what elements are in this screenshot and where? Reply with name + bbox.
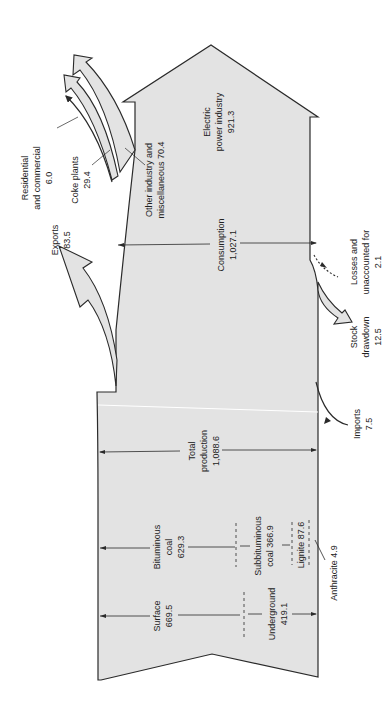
residential-value: 6.0: [44, 172, 54, 185]
exports-value: 83.5: [62, 231, 72, 249]
other-industry-arrow: [73, 55, 135, 172]
coal-flow-diagram: Residential and commercial 6.0 Coke plan…: [0, 0, 392, 718]
underground-label: Underground: [267, 588, 277, 641]
other-industry-label-2: miscellaneous 70.4: [156, 141, 166, 218]
losses-arrowhead-icon: [320, 262, 327, 268]
stock-drawdown-label-1: Stock: [349, 325, 359, 348]
residential-leader: [57, 117, 78, 128]
stock-drawdown-value: 12.5: [373, 328, 383, 346]
subbituminous-label-2: coal 366.9: [265, 525, 275, 567]
imports-arrow: [316, 382, 348, 425]
coke-plants-label: Coke plants: [70, 156, 80, 204]
imports-label: Imports: [352, 409, 362, 440]
surface-value: 669.5: [164, 605, 174, 628]
bituminous-label-1: Bituminous: [152, 524, 162, 569]
other-industry-label-1: Other industry and: [144, 143, 154, 217]
consumption-label: Consumption: [216, 218, 226, 271]
anthracite-label: Anthracite 4.9: [329, 545, 339, 601]
losses-label-1: Losses and: [349, 239, 359, 285]
lignite-label: Lignite 87.6: [296, 522, 306, 569]
total-production-label-2: production: [199, 430, 209, 472]
consumption-arrowhead-left-icon: [118, 243, 124, 247]
coke-plants-value: 29.4: [82, 171, 92, 189]
bituminous-value: 629.3: [176, 536, 186, 559]
electric-power-label-1: Electric: [202, 107, 212, 137]
residential-label-1: Residential: [20, 156, 30, 201]
imports-value: 7.5: [364, 418, 374, 431]
stock-drawdown-arrow: [318, 282, 352, 324]
imports-arrowhead-icon: [324, 417, 331, 424]
residential-label-2: and commercial: [32, 146, 42, 210]
electric-power-label-2: power industry: [214, 92, 224, 151]
stock-drawdown-label-2: drawdown: [361, 316, 371, 357]
subbituminous-label-1: Subbituminous: [253, 516, 263, 576]
total-production-label-1: Total: [187, 441, 197, 460]
losses-label-2: unaccounted for: [361, 230, 371, 295]
underground-value: 419.1: [279, 603, 289, 626]
electric-power-value: 921.3: [226, 111, 236, 134]
losses-value: 2.1: [373, 256, 383, 269]
consumption-value: 1,027.1: [228, 230, 238, 260]
exports-arrow: [59, 246, 117, 386]
losses-arrow: [314, 255, 338, 277]
total-production-value: 1,088.6: [211, 436, 221, 466]
bituminous-label-2: coal: [164, 539, 174, 556]
consumption-arrowhead-right-icon: [311, 241, 317, 245]
exports-label: Exports: [50, 224, 60, 255]
surface-label: Surface: [152, 600, 162, 631]
